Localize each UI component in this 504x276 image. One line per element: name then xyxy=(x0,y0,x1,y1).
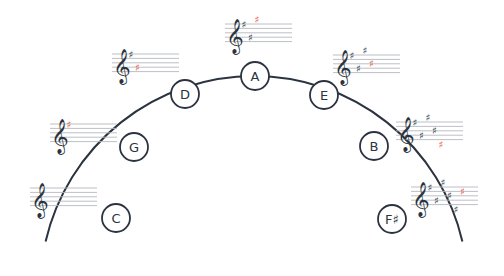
staff-a: 𝄞♯♯♯ xyxy=(225,14,292,55)
sharp-icon: ♯ xyxy=(413,117,418,128)
sharp-icon: ♯ xyxy=(428,182,433,193)
key-node-a: A xyxy=(241,62,269,90)
node-label: B xyxy=(370,139,379,154)
sharp-icon: ♯ xyxy=(350,50,355,61)
treble-clef-icon: 𝄞 xyxy=(31,182,49,219)
sharp-icon: ♯ xyxy=(441,177,446,188)
sharp-icon: ♯ xyxy=(419,130,424,141)
node-label: E xyxy=(320,88,328,103)
sharp-icon: ♯ xyxy=(242,19,247,30)
key-node-g: G xyxy=(120,133,148,161)
node-label: G xyxy=(129,140,139,155)
sharp-icon: ♯ xyxy=(129,49,134,60)
key-node-b: B xyxy=(360,132,388,160)
key-node-f-sharp: F♯ xyxy=(378,205,406,233)
staff-c: 𝄞 xyxy=(30,182,97,219)
new-sharp-icon: ♯ xyxy=(135,62,140,73)
key-node-c: C xyxy=(102,204,130,232)
new-sharp-icon: ♯ xyxy=(439,139,444,150)
key-nodes: CGDAEBF♯ xyxy=(102,62,406,233)
node-label: F♯ xyxy=(385,212,399,227)
sharp-icon: ♯ xyxy=(248,32,253,43)
new-sharp-icon: ♯ xyxy=(369,58,374,69)
sharp-icon: ♯ xyxy=(434,195,439,206)
sharp-icon: ♯ xyxy=(454,204,459,215)
node-label: A xyxy=(251,69,260,84)
sharp-icon: ♯ xyxy=(363,45,368,56)
new-sharp-icon: ♯ xyxy=(67,119,72,130)
staff-g: 𝄞♯ xyxy=(50,118,117,155)
sharp-icon: ♯ xyxy=(447,190,452,201)
node-label: D xyxy=(180,87,190,102)
node-label: C xyxy=(111,211,120,226)
key-signature-staves: 𝄞𝄞♯𝄞♯♯𝄞♯♯♯𝄞♯♯♯♯𝄞♯♯♯♯♯𝄞♯♯♯♯♯♯ xyxy=(30,14,478,219)
staff-d: 𝄞♯♯ xyxy=(112,48,179,85)
key-node-e: E xyxy=(310,81,338,109)
new-sharp-icon: ♯ xyxy=(255,14,260,25)
staff-f-sharp: 𝄞♯♯♯♯♯♯ xyxy=(411,177,478,218)
staff-e: 𝄞♯♯♯♯ xyxy=(333,45,400,86)
sharp-icon: ♯ xyxy=(432,125,437,136)
sharp-icon: ♯ xyxy=(426,112,431,123)
circle-of-fifths-diagram: 𝄞𝄞♯𝄞♯♯𝄞♯♯♯𝄞♯♯♯♯𝄞♯♯♯♯♯𝄞♯♯♯♯♯♯ CGDAEBF♯ xyxy=(0,0,504,276)
sharp-icon: ♯ xyxy=(356,63,361,74)
key-node-d: D xyxy=(171,80,199,108)
staff-b: 𝄞♯♯♯♯♯ xyxy=(396,112,463,153)
new-sharp-icon: ♯ xyxy=(460,186,465,197)
